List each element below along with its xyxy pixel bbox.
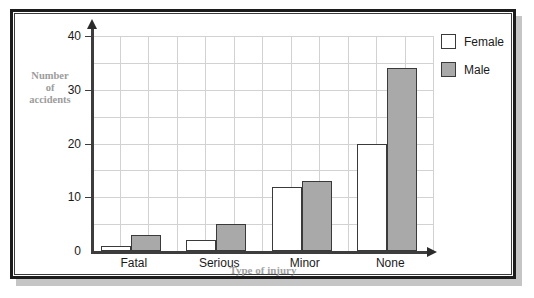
gridline-v-9 [348,36,349,251]
gridline-v-1 [120,36,121,251]
x-axis-line [91,251,430,254]
legend-item-female[interactable]: Female [441,34,513,49]
legend-label-male: Male [464,63,490,77]
y-tick-label-10: 10 [29,190,81,204]
x-axis-title: Type of injury [163,264,363,276]
bar-minor-male[interactable] [302,181,332,251]
gridline-v-4 [205,36,206,251]
gridline-v-3 [177,36,178,251]
bar-serious-male[interactable] [216,224,246,251]
legend-item-male[interactable]: Male [441,62,513,77]
legend-swatch-female-icon [441,34,456,49]
legend-label-female: Female [464,35,504,49]
bar-serious-female[interactable] [186,240,216,251]
scan-artifact [18,0,58,6]
figure-frame: Number of accidents 010203040 FatalSerio… [10,9,516,279]
legend: Female Male [441,34,513,90]
bar-minor-female[interactable] [272,187,302,252]
bar-none-female[interactable] [357,144,387,252]
bar-chart: Number of accidents 010203040 FatalSerio… [13,12,513,276]
gridline-v-12 [433,36,434,251]
bar-fatal-male[interactable] [131,235,161,251]
x-category-label-fatal: Fatal [94,256,174,270]
bar-none-male[interactable] [387,68,417,251]
y-axis-arrow-icon [87,19,97,29]
y-axis-line [91,27,94,251]
y-axis-tick-labels: 010203040 [13,12,81,276]
legend-swatch-male-icon [441,62,456,77]
plot-area [91,36,433,251]
y-tick-label-40: 40 [29,29,81,43]
gridline-v-5 [234,36,235,251]
y-tick-label-30: 30 [29,83,81,97]
gridline-v-2 [148,36,149,251]
y-tick-label-0: 0 [29,244,81,258]
gridline-v-6 [262,36,263,251]
y-tick-label-20: 20 [29,137,81,151]
